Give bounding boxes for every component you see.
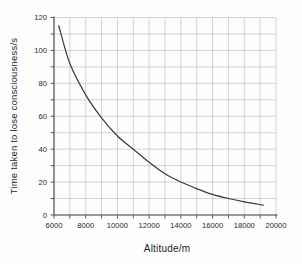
x-tick-label: 8000 bbox=[77, 221, 94, 230]
x-tick-label: 16000 bbox=[202, 221, 223, 230]
x-tick-label: 20000 bbox=[265, 221, 286, 230]
y-tick-label: 120 bbox=[34, 13, 47, 22]
consciousness-altitude-figure: 6000800010000120001400016000180002000002… bbox=[0, 0, 302, 264]
y-tick-label: 60 bbox=[39, 112, 47, 121]
line-chart-canvas: 6000800010000120001400016000180002000002… bbox=[0, 0, 302, 264]
y-axis-title: Time taken to lose consciousness/s bbox=[8, 38, 19, 194]
x-tick-label: 18000 bbox=[234, 221, 255, 230]
data-curve bbox=[59, 26, 264, 205]
y-tick-label: 20 bbox=[39, 178, 47, 187]
y-tick-label: 40 bbox=[39, 145, 47, 154]
y-tick-label: 0 bbox=[43, 211, 47, 220]
x-tick-label: 10000 bbox=[107, 221, 128, 230]
x-tick-label: 6000 bbox=[46, 221, 63, 230]
x-axis-title: Altitude/m bbox=[144, 243, 190, 254]
y-tick-label: 100 bbox=[34, 46, 47, 55]
x-tick-label: 14000 bbox=[170, 221, 191, 230]
x-tick-label: 12000 bbox=[139, 221, 160, 230]
y-tick-label: 80 bbox=[39, 79, 47, 88]
